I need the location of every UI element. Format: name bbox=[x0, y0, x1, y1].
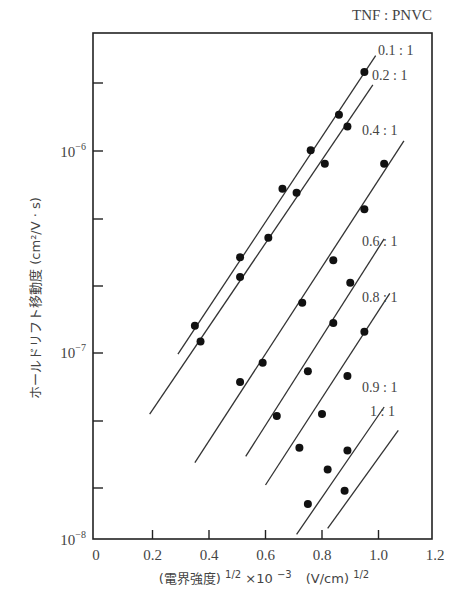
series-label: 0.1 : 1 bbox=[378, 43, 413, 58]
y-axis-label: ホールドリフト移動度 (cm²/V · s) bbox=[28, 197, 43, 399]
data-point bbox=[298, 299, 306, 307]
plot-frame bbox=[93, 33, 432, 539]
y-tick-label: 10−6 bbox=[60, 141, 86, 160]
x-axis: 00.20.40.60.81.01.2 bbox=[92, 530, 444, 563]
series-label: 0.2 : 1 bbox=[372, 68, 407, 83]
chart-title: TNF : PNVC bbox=[352, 7, 432, 23]
data-point bbox=[329, 256, 337, 264]
data-point bbox=[259, 359, 267, 367]
data-point bbox=[343, 446, 351, 454]
x-tick-label: 0.2 bbox=[143, 547, 162, 563]
data-point bbox=[293, 189, 301, 197]
data-point bbox=[236, 273, 244, 281]
series-group: 0.1 : 10.2 : 10.4 : 10.6 : 10.8 : 10.9 :… bbox=[150, 43, 414, 534]
data-point bbox=[360, 205, 368, 213]
series-label: 0.6 : 1 bbox=[362, 234, 397, 249]
data-point bbox=[295, 444, 303, 452]
data-point bbox=[343, 372, 351, 380]
data-point bbox=[236, 378, 244, 386]
fit-line bbox=[328, 430, 399, 528]
data-point bbox=[307, 146, 315, 154]
series-label: 0.4 : 1 bbox=[362, 123, 397, 138]
x-tick-label: 0 bbox=[92, 547, 100, 563]
x-tick-label: 1.2 bbox=[426, 547, 445, 563]
mobility-chart: TNF : PNVC 00.20.40.60.81.01.2 10−610−71… bbox=[0, 0, 470, 611]
fit-line bbox=[297, 407, 385, 534]
data-point bbox=[335, 111, 343, 119]
data-point bbox=[324, 465, 332, 473]
data-point bbox=[380, 160, 388, 168]
x-axis-label: (電界強度) 1/2 ×10 −3 (V/cm) 1/2 bbox=[159, 566, 369, 586]
x-tick-label: 1.0 bbox=[369, 547, 388, 563]
data-point bbox=[304, 500, 312, 508]
data-point bbox=[264, 234, 272, 242]
series-label: 1 : 1 bbox=[370, 404, 395, 419]
y-tick-label: 10−7 bbox=[60, 342, 86, 361]
data-point bbox=[304, 367, 312, 375]
series-1-1: 1 : 1 bbox=[328, 404, 399, 528]
data-point bbox=[341, 487, 349, 495]
data-point bbox=[318, 410, 326, 418]
series-label: 0.9 : 1 bbox=[362, 380, 397, 395]
y-tick-label: 10−8 bbox=[60, 529, 86, 548]
x-tick-label: 0.4 bbox=[200, 547, 219, 563]
fit-line bbox=[178, 56, 376, 354]
y-axis: 10−610−710−8 bbox=[60, 83, 103, 548]
data-point bbox=[278, 185, 286, 193]
x-tick-label: 0.8 bbox=[313, 547, 332, 563]
data-point bbox=[360, 68, 368, 76]
data-point bbox=[197, 337, 205, 345]
data-point bbox=[346, 279, 354, 287]
data-point bbox=[236, 253, 244, 261]
fit-line bbox=[246, 239, 384, 456]
data-point bbox=[329, 319, 337, 327]
series-label: 0.8 : 1 bbox=[362, 290, 397, 305]
x-tick-label: 0.6 bbox=[256, 547, 275, 563]
data-point bbox=[343, 122, 351, 130]
data-point bbox=[321, 160, 329, 168]
data-point bbox=[191, 322, 199, 330]
data-point bbox=[360, 328, 368, 336]
data-point bbox=[273, 412, 281, 420]
